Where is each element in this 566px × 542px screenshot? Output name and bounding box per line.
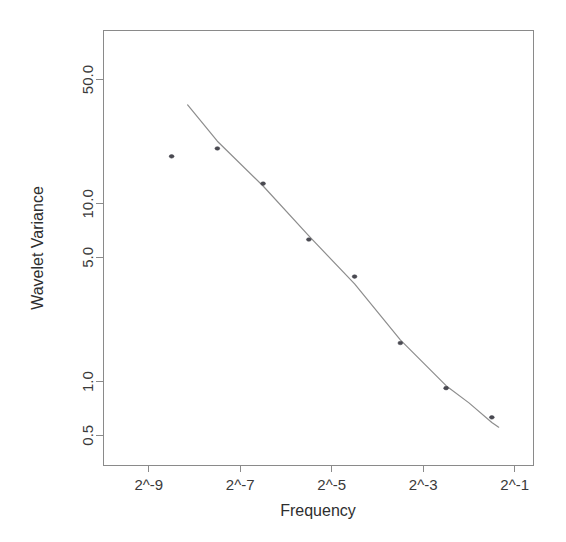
y-tick-label: 10.0 bbox=[79, 189, 96, 218]
x-axis-title: Frequency bbox=[280, 502, 356, 519]
y-tick-label: 50.0 bbox=[79, 65, 96, 94]
data-point-marker bbox=[261, 182, 266, 186]
y-tick-label: 0.5 bbox=[79, 425, 96, 446]
data-point-marker bbox=[215, 147, 220, 151]
data-point-marker bbox=[352, 275, 357, 279]
y-axis-title: Wavelet Variance bbox=[29, 186, 46, 310]
y-tick-label: 5.0 bbox=[79, 247, 96, 268]
x-tick-label: 2^-3 bbox=[409, 476, 438, 493]
x-tick-label: 2^-9 bbox=[134, 476, 163, 493]
x-tick-label: 2^-7 bbox=[226, 476, 255, 493]
data-point-marker bbox=[169, 155, 174, 159]
chart-canvas: 50.010.05.01.00.5 2^-92^-72^-52^-32^-1 F… bbox=[0, 0, 566, 542]
data-point-marker bbox=[306, 238, 311, 242]
x-tick-label: 2^-5 bbox=[317, 476, 346, 493]
wavelet-variance-chart: 50.010.05.01.00.5 2^-92^-72^-52^-32^-1 F… bbox=[0, 0, 566, 542]
y-tick-label: 1.0 bbox=[79, 371, 96, 392]
data-point-marker bbox=[444, 386, 449, 390]
x-tick-label: 2^-1 bbox=[500, 476, 529, 493]
data-point-marker bbox=[398, 341, 403, 345]
data-point-marker bbox=[489, 416, 494, 420]
